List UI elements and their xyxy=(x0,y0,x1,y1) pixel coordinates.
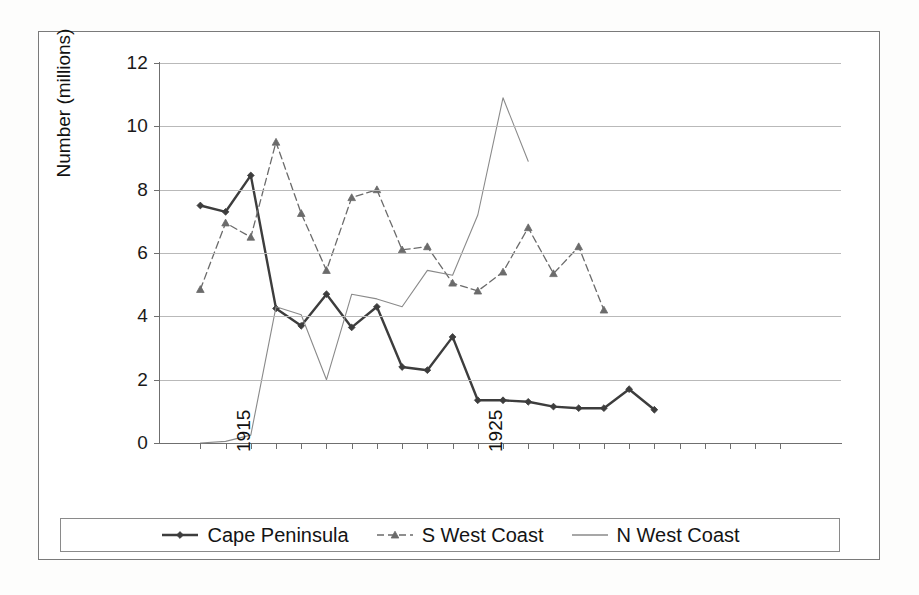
y-axis-tick-labels: 121086420 xyxy=(112,63,148,443)
gridline xyxy=(160,63,841,64)
data-point-marker xyxy=(272,138,280,145)
x-axis-tick xyxy=(553,443,554,449)
y-axis-tick-label: 8 xyxy=(137,179,148,201)
x-axis-tick xyxy=(427,443,428,449)
x-axis-tick xyxy=(478,443,479,449)
data-point-marker xyxy=(177,532,184,539)
y-axis-tick-label: 4 xyxy=(137,305,148,327)
legend-label: Cape Peninsula xyxy=(207,524,348,547)
data-point-marker xyxy=(525,398,532,405)
y-axis-tick xyxy=(154,253,160,254)
data-point-marker xyxy=(575,405,582,412)
data-point-marker xyxy=(474,397,481,404)
series-line-cape-peninsula xyxy=(200,175,654,409)
data-point-marker xyxy=(449,279,457,286)
data-point-marker xyxy=(222,219,230,226)
x-axis-tick xyxy=(377,443,378,449)
x-axis-tick xyxy=(226,443,227,449)
legend-key-icon xyxy=(570,528,610,542)
legend-item-cape-peninsula[interactable]: Cape Peninsula xyxy=(160,524,348,547)
x-axis-label-1925: 1925 xyxy=(485,410,507,452)
gridline xyxy=(160,190,841,191)
x-axis-tick xyxy=(200,443,201,449)
x-axis-tick xyxy=(780,443,781,449)
data-point-marker xyxy=(424,243,432,250)
gridline xyxy=(160,316,841,317)
y-axis-tick-label: 6 xyxy=(137,242,148,264)
x-axis-tick xyxy=(579,443,580,449)
y-axis-tick xyxy=(154,126,160,127)
data-point-marker xyxy=(348,194,356,201)
data-point-marker xyxy=(550,403,557,410)
data-point-marker xyxy=(297,210,305,217)
x-axis-tick xyxy=(402,443,403,449)
x-axis-tick xyxy=(629,443,630,449)
gridline xyxy=(160,380,841,381)
data-point-marker xyxy=(247,233,255,240)
data-point-marker xyxy=(524,224,532,231)
x-axis-label-1915: 1915 xyxy=(233,410,255,452)
x-axis-tick xyxy=(654,443,655,449)
y-axis-tick xyxy=(154,190,160,191)
chart-legend: Cape PeninsulaS West CoastN West Coast xyxy=(60,518,840,552)
legend-item-n-west-coast[interactable]: N West Coast xyxy=(570,524,740,547)
y-axis-tick xyxy=(154,443,160,444)
legend-key-icon xyxy=(375,528,415,542)
x-axis-tick xyxy=(730,443,731,449)
plot-area xyxy=(160,63,841,443)
gridline xyxy=(160,126,841,127)
legend-item-s-west-coast[interactable]: S West Coast xyxy=(375,524,544,547)
data-point-marker xyxy=(575,243,583,250)
data-point-marker xyxy=(197,286,205,293)
x-axis-tick xyxy=(352,443,353,449)
x-axis-tick xyxy=(453,443,454,449)
y-axis-tick xyxy=(154,63,160,64)
x-axis-tick xyxy=(604,443,605,449)
y-axis-tick-label: 12 xyxy=(126,52,148,74)
y-axis-tick xyxy=(154,380,160,381)
x-axis-tick xyxy=(301,443,302,449)
y-axis-tick-label: 0 xyxy=(137,432,148,454)
y-axis-tick xyxy=(154,316,160,317)
x-axis-tick xyxy=(705,443,706,449)
data-point-marker xyxy=(197,202,204,209)
x-axis-tick xyxy=(326,443,327,449)
legend-label: S West Coast xyxy=(422,524,544,547)
gridline xyxy=(160,253,841,254)
x-axis-tick xyxy=(276,443,277,449)
chart-page: Number (millions) 121086420 19151925 Cap… xyxy=(0,0,919,595)
legend-label: N West Coast xyxy=(617,524,740,547)
y-axis-tick-label: 2 xyxy=(137,369,148,391)
x-axis-tick xyxy=(680,443,681,449)
y-axis-title: Number (millions) xyxy=(53,0,75,213)
data-point-marker xyxy=(499,268,507,275)
legend-key-icon xyxy=(160,528,200,542)
data-point-marker xyxy=(600,306,608,313)
x-axis-tick xyxy=(528,443,529,449)
data-point-marker xyxy=(399,364,406,371)
x-axis-tick xyxy=(755,443,756,449)
series-line-n-west-coast xyxy=(200,98,528,443)
data-point-marker xyxy=(323,267,331,274)
y-axis-tick-label: 10 xyxy=(126,115,148,137)
data-point-marker xyxy=(500,397,507,404)
